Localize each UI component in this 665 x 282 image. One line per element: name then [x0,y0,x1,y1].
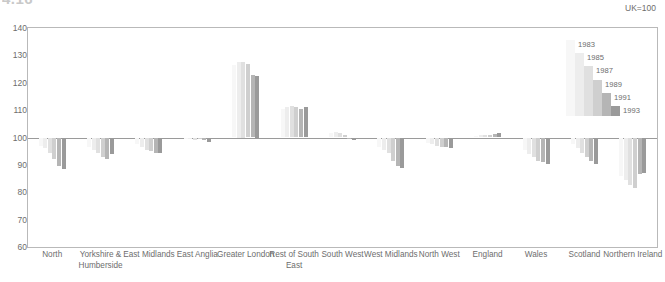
bar [43,138,47,149]
bar [589,138,593,161]
legend-swatch [611,106,620,116]
bar [571,138,575,145]
bar [304,107,308,137]
bar [541,138,545,163]
bar [334,132,338,137]
bar [474,136,478,137]
bar [285,107,289,137]
bar [237,62,241,137]
y-axis-tick-label: 70 [5,215,27,225]
index-base-note: UK=100 [625,3,656,13]
bar [440,138,444,148]
bar [523,138,527,150]
bar [62,138,66,169]
y-axis-tick-label: 130 [5,50,27,60]
bar [483,135,487,138]
bar [246,64,250,138]
bar [449,138,453,149]
y-axis-tick-label: 80 [5,187,27,197]
bar [251,75,255,138]
bar-group [39,28,66,247]
bar [396,138,400,167]
bar-group [474,28,501,247]
bar-group [377,28,404,247]
bar-group [523,28,550,247]
legend-swatch [575,53,584,116]
bar [628,138,632,186]
bar [352,138,356,141]
legend-label: 1983 [578,40,595,49]
bar [633,138,637,189]
bar [400,138,404,168]
bar [232,65,236,138]
bar [52,138,56,160]
bar [536,138,540,161]
bar-group [329,28,356,247]
bar [329,133,333,137]
bar-group [184,28,211,247]
bar [158,138,162,153]
bar [110,138,114,154]
bar [527,138,531,154]
bar [488,135,492,138]
legend-swatch [593,80,602,116]
bar [154,138,158,153]
page-title-text: 4.16 [2,0,162,6]
x-axis-labels: NorthYorkshire & HumbersideEast Midlands… [27,250,658,282]
legend-label: 1989 [605,79,622,88]
bar-group [426,28,453,247]
bar-group [87,28,114,247]
bar [281,109,285,138]
legend-swatch [566,40,575,116]
bar [188,138,192,139]
y-axis-tick-label: 100 [5,133,27,143]
bar [377,138,381,148]
bar [202,138,206,141]
bar [140,138,144,148]
legend-label: 1987 [596,66,613,75]
bar [57,138,61,167]
bar [382,138,386,150]
bar [546,138,550,164]
bar [105,138,109,160]
bar [101,138,105,157]
bar [387,138,391,153]
bar [624,138,628,180]
bar [426,138,430,143]
bar [299,109,303,138]
bar [493,134,497,138]
bar-group [135,28,162,247]
bar [145,138,149,150]
bar [338,133,342,137]
y-axis-tick-label: 90 [5,160,27,170]
bar [430,138,434,145]
y-axis-labels: 60708090100110120130140 [0,27,27,248]
bar [444,138,448,148]
bar [48,138,52,153]
bar [255,76,259,138]
bar [576,138,580,149]
bar [207,138,211,142]
y-axis-tick-label: 140 [5,23,27,33]
bar [479,135,483,137]
bar [585,138,589,157]
bar [294,107,298,137]
legend-label: 1985 [587,53,604,62]
legend-label: 1991 [614,92,631,101]
bar [343,135,347,138]
bar [642,138,646,174]
bar [149,138,153,152]
bar [435,138,439,146]
bar [619,138,623,176]
bar [87,138,91,148]
legend-label: 1993 [623,106,640,115]
bar [580,138,584,153]
bar [193,138,197,141]
bar [347,138,351,139]
bar [497,133,501,137]
bar [184,138,188,139]
legend-swatch [584,66,593,116]
bar-group [281,28,308,247]
bar [39,138,43,146]
